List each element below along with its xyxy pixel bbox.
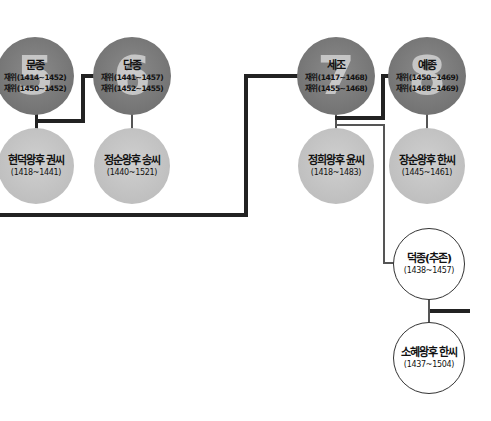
king-life-years: 재위(1450~1469) [396,72,458,83]
queen-node-jeonghui[interactable]: 정희왕후 윤씨 (1418~1483) [298,128,374,204]
family-tree-diagram: 5 문종 재위(1414~1452) 재위(1450~1452) 6 단종 재위… [0,0,491,421]
queen-name: 정희왕후 윤씨 [308,154,365,167]
king-node-sejo[interactable]: 7 세조 재위(1417~1468) 재위(1455~1468) [297,37,375,115]
lineage-line-to-sejo [244,74,300,78]
queen-name: 장순왕후 한씨 [399,154,456,167]
sejo-to-deokjong-v [383,124,385,264]
king-reign-years: 재위(1455~1468) [305,83,367,94]
king-node-danjong[interactable]: 6 단종 재위(1441~1457) 재위(1452~1455) [93,37,171,115]
king-reign-years: 재위(1450~1452) [4,83,66,94]
king-life-years: 재위(1414~1452) [4,72,66,83]
munjong-to-danjong-h [35,119,85,123]
king-name: 문종 [26,59,44,72]
queen-years: (1418~1483) [311,167,361,179]
person-name: 덕종(추존) [407,252,451,265]
person-years: (1437~1504) [404,359,454,371]
king-life-years: 재위(1441~1457) [101,72,163,83]
queen-name: 정순왕후 송씨 [104,154,161,167]
queen-node-hyeondeok[interactable]: 현덕왕후 권씨 (1418~1441) [0,128,74,204]
queen-years: (1440~1521) [107,167,157,179]
sejo-to-yejong-h [335,116,385,120]
deokjong-descendant-line [430,309,470,313]
queen-years: (1445~1461) [402,167,452,179]
king-reign-years: 재위(1468~1469) [396,83,458,94]
node-sohye[interactable]: 소혜왕후 한씨 (1437~1504) [393,322,465,394]
munjong-to-danjong-v [81,74,85,123]
lineage-line-main-vertical [244,74,248,217]
queen-name: 현덕왕후 권씨 [8,154,65,167]
person-years: (1438~1457) [404,265,454,277]
king-name: 세조 [327,59,345,72]
lineage-line-main-horizontal [0,213,248,217]
person-name: 소혜왕후 한씨 [401,346,458,359]
queen-node-jangsun[interactable]: 장순왕후 한씨 (1445~1461) [389,128,465,204]
king-node-munjong[interactable]: 5 문종 재위(1414~1452) 재위(1450~1452) [0,37,74,115]
sejo-to-deokjong-h [335,124,385,126]
king-name: 단종 [123,59,141,72]
queen-node-jeongsun[interactable]: 정순왕후 송씨 (1440~1521) [94,128,170,204]
sejo-to-yejong-v [381,74,385,120]
king-name: 예종 [418,59,436,72]
node-deokjong[interactable]: 덕종(추존) (1438~1457) [393,228,465,300]
queen-years: (1418~1441) [11,167,61,179]
king-node-yejong[interactable]: 8 예종 재위(1450~1469) 재위(1468~1469) [388,37,466,115]
king-reign-years: 재위(1452~1455) [101,83,163,94]
king-life-years: 재위(1417~1468) [305,72,367,83]
